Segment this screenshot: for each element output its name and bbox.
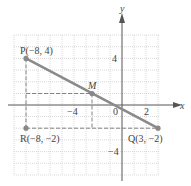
y-tick-neg4: −4 [108,146,119,157]
point-r-label: R(−8, −2) [20,133,60,145]
point-m-label: M [87,80,97,91]
point-q-label: Q(3, −2) [128,133,163,145]
y-axis-arrow-icon [119,13,125,23]
point-m [89,91,94,96]
y-axis-label: y [119,3,125,14]
axes [8,17,176,181]
origin-label: 0 [113,106,118,117]
x-tick-neg4: −4 [67,106,78,117]
y-tick-4: 4 [112,53,117,64]
coordinate-diagram: P(−8, 4) Q(3, −2) R(−8, −2) M x y 0 −4 2… [0,0,191,186]
point-p [23,56,28,61]
x-tick-2: 2 [144,106,149,117]
x-axis-label: x [179,100,185,111]
point-p-label: P(−8, 4) [20,45,53,57]
point-r [23,126,28,131]
point-q [155,126,160,131]
